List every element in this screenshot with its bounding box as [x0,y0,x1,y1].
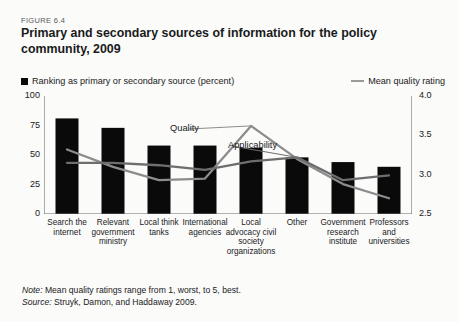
x-category-label: Professors and universities [362,218,416,247]
y-tick-right-0: 2.5 [419,208,443,218]
bar [332,162,355,214]
y-tick-left-4: 100 [18,90,40,100]
y-tick-left-1: 25 [18,179,40,189]
bar [102,128,125,214]
bar [378,167,401,214]
legend-line-series: Mean quality rating [351,76,445,86]
annotation-quality: Quality [170,123,199,133]
legend-bar-swatch-icon [21,78,28,85]
chart-svg [44,96,412,214]
axis-frame [44,96,412,214]
bar [286,157,309,214]
note-body: Mean quality ratings range from 1, worst… [43,285,241,295]
source-text: Source: Struyk, Damon, and Haddaway 2009… [22,297,197,307]
y-tick-left-0: 0 [18,208,40,218]
figure-title: Primary and secondary sources of informa… [21,26,421,57]
y-tick-left-2: 50 [18,149,40,159]
source-prefix: Source: [22,297,52,307]
annotation-applicability: Applicability [228,140,277,150]
plot-area [44,96,412,214]
note-prefix: Note: [22,285,43,295]
legend-bar-series: Ranking as primary or secondary source (… [21,76,234,86]
source-body: Struyk, Damon, and Haddaway 2009. [52,297,197,307]
bar [240,148,263,214]
figure-number: FIGURE 6.4 [21,16,65,25]
legend-bar-label: Ranking as primary or secondary source (… [32,76,234,86]
y-tick-right-3: 4.0 [419,90,443,100]
y-tick-right-1: 3.0 [419,169,443,179]
note-text: Note: Mean quality ratings range from 1,… [22,285,241,295]
legend-line-swatch-icon [351,80,364,82]
y-tick-right-2: 3.5 [419,129,443,139]
y-tick-left-3: 75 [18,120,40,130]
legend-line-label: Mean quality rating [368,76,445,86]
bar [56,118,79,214]
figure-card: FIGURE 6.4 Primary and secondary sources… [0,0,459,322]
